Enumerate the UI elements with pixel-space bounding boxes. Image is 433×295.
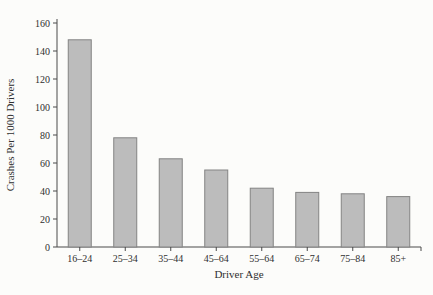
bar-55-64 [250, 188, 273, 247]
bar-65-74 [296, 192, 319, 247]
crashes-per-1000-drivers-bar-chart: 02040608010012014016016–2425–3435–4445–6… [0, 0, 433, 295]
x-tick-label: 45–64 [204, 253, 229, 264]
y-tick-label: 40 [40, 186, 50, 197]
y-tick-label: 60 [40, 158, 50, 169]
y-axis-title: Crashes Per 1000 Drivers [4, 79, 16, 192]
x-tick-label: 35–44 [158, 253, 183, 264]
y-tick-label: 140 [35, 46, 50, 57]
x-tick-label: 25–34 [113, 253, 138, 264]
y-tick-label: 80 [40, 130, 50, 141]
y-tick-label: 20 [40, 214, 50, 225]
x-tick-label: 55–64 [249, 253, 274, 264]
bar-25-34 [114, 138, 137, 247]
bar-35-44 [159, 159, 182, 247]
x-tick-label: 16–24 [67, 253, 92, 264]
x-axis-title: Driver Age [214, 268, 263, 280]
x-tick-label: 65–74 [295, 253, 320, 264]
y-tick-label: 100 [35, 102, 50, 113]
bar-16-24 [68, 40, 91, 247]
bar-75-84 [341, 194, 364, 247]
bar-45-64 [205, 170, 228, 247]
bar-85+ [387, 197, 410, 247]
y-tick-label: 160 [35, 18, 50, 29]
x-tick-label: 85+ [390, 253, 406, 264]
chart-figure: 02040608010012014016016–2425–3435–4445–6… [0, 0, 433, 295]
y-tick-label: 120 [35, 74, 50, 85]
y-tick-label: 0 [45, 242, 50, 253]
x-tick-label: 75–84 [340, 253, 365, 264]
